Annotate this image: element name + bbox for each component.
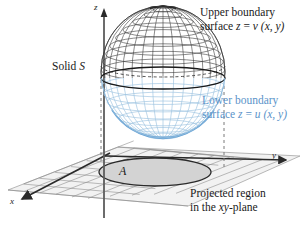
projected-line1: Projected region [190, 187, 266, 201]
lower-boundary-line1: Lower boundary [202, 94, 287, 108]
projected-region-label: Projected region in the xy-plane [190, 187, 266, 214]
solid-symbol: S [79, 60, 85, 72]
z-axis-label: z [94, 2, 98, 12]
solid-s-label: Solid S [52, 60, 85, 74]
projected-region-a [99, 158, 211, 186]
xy-symbol: xy [219, 201, 229, 213]
y-axis-label: y [272, 150, 276, 160]
z-axis-arrowhead [101, 8, 108, 17]
lower-boundary-label: Lower boundary surface z = u (x, y) [202, 94, 287, 121]
args-lower: (x, y) [261, 108, 288, 120]
args-upper: (x, y) [258, 20, 285, 32]
x-axis-label: x [10, 196, 14, 206]
region-a-label: A [119, 164, 126, 178]
upper-boundary-line2: surface z = v (x, y) [200, 20, 284, 34]
figure-canvas: Upper boundary surface z = v (x, y) Lowe… [0, 0, 308, 228]
upper-boundary-line1: Upper boundary [200, 6, 284, 20]
lower-boundary-line2: surface z = u (x, y) [202, 108, 287, 122]
upper-boundary-label: Upper boundary surface z = v (x, y) [200, 6, 284, 33]
projected-line2: in the xy-plane [190, 201, 266, 215]
